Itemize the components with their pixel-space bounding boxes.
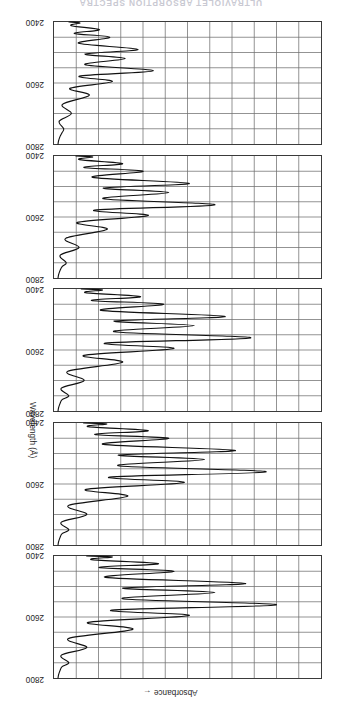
wavelength-ticks-panel-4: 240026002800 <box>10 155 50 279</box>
tick-label-2400: 2400 <box>26 285 44 293</box>
tick-label-2800: 2800 <box>26 409 44 417</box>
tick-label-2800: 2800 <box>26 275 44 283</box>
spectrum-trace-1 <box>54 556 321 678</box>
running-head: ULTRAVIOLET ABSORPTION SPECTRA <box>0 0 341 8</box>
spectrum-trace-5 <box>54 22 321 144</box>
absorbance-axis-label: Absorbance ← <box>0 688 341 697</box>
spectrum-panel-5 <box>53 21 322 145</box>
tick-label-2600: 2600 <box>26 213 44 221</box>
tick-label-2800: 2800 <box>26 542 44 550</box>
tick-label-2600: 2600 <box>26 347 44 355</box>
tick-label-2600: 2600 <box>26 613 44 621</box>
tick-label-2400: 2400 <box>26 418 44 426</box>
tick-label-2400: 2400 <box>26 551 44 559</box>
spectrum-panel-1 <box>53 555 322 679</box>
panel-stack: 2400260028002400260028002400260028002400… <box>53 22 322 679</box>
tick-label-2400: 2400 <box>26 18 44 26</box>
tick-label-2600: 2600 <box>26 480 44 488</box>
tick-label-2400: 2400 <box>26 151 44 159</box>
wavelength-ticks-panel-5: 240026002800 <box>10 21 50 145</box>
tick-label-2800: 2800 <box>26 675 44 683</box>
absorbance-axis-text: Absorbance <box>154 688 198 697</box>
spectrum-trace-4 <box>54 156 321 278</box>
wavelength-ticks-panel-1: 240026002800 <box>10 555 50 679</box>
wavelength-ticks-panel-2: 240026002800 <box>10 422 50 546</box>
spectrum-panel-4 <box>53 155 322 279</box>
tick-label-2600: 2600 <box>26 80 44 88</box>
spectrum-panel-2 <box>53 422 322 546</box>
tick-label-2800: 2800 <box>26 142 44 150</box>
spectrum-trace-3 <box>54 289 321 411</box>
spectra-figure: ULTRAVIOLET ABSORPTION SPECTRA Absorbanc… <box>0 0 341 702</box>
spectrum-panel-3 <box>53 288 322 412</box>
wavelength-ticks-panel-3: 240026002800 <box>10 288 50 412</box>
absorbance-arrow-icon: ← <box>143 688 151 697</box>
spectrum-trace-2 <box>54 423 321 545</box>
